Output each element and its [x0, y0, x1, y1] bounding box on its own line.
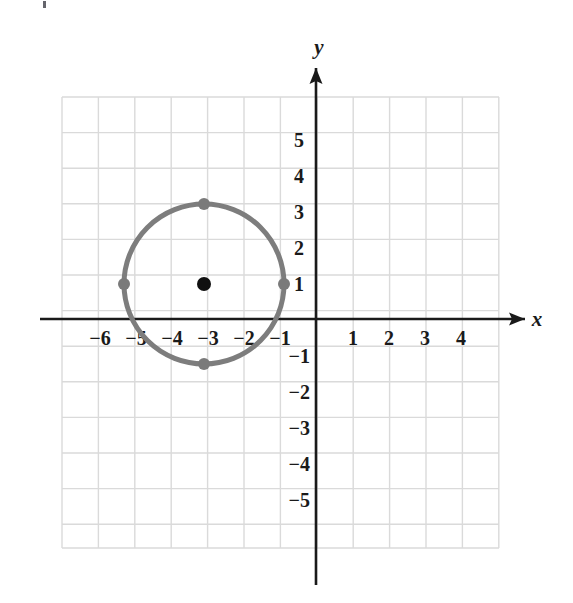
coordinate-plane-graph: x y −6 −5 −4 −3 −2 −1 1 2 3 4 5 4 3 2 1 …: [0, 0, 573, 603]
x-tick-label: −4: [161, 327, 182, 349]
point-marker-bottom: [198, 358, 210, 370]
point-marker-right: [278, 278, 290, 290]
x-tick-label: 1: [348, 327, 358, 349]
x-tick-label: 4: [456, 327, 466, 349]
grid-lines: [62, 97, 499, 548]
y-tick-label: −5: [289, 489, 310, 511]
y-tick-label: −4: [289, 453, 310, 475]
y-tick-label: −1: [289, 345, 310, 367]
y-axis-label: y: [311, 35, 324, 59]
point-marker-top: [198, 198, 210, 210]
y-tick-label: 2: [294, 237, 304, 259]
x-axis-label: x: [531, 307, 543, 331]
y-tick-label: 5: [294, 129, 304, 151]
y-tick-label: −2: [289, 381, 310, 403]
y-tick-label: 4: [294, 165, 304, 187]
circle-center-dot: [197, 277, 211, 291]
x-tick-label: 2: [384, 327, 394, 349]
y-tick-label: 1: [294, 273, 304, 295]
point-marker-left: [118, 278, 130, 290]
y-tick-label: 3: [294, 201, 304, 223]
graph-figure: x y −6 −5 −4 −3 −2 −1 1 2 3 4 5 4 3 2 1 …: [0, 0, 573, 603]
x-tick-label: −3: [197, 327, 218, 349]
y-tick-label: −3: [289, 417, 310, 439]
x-tick-label: −1: [269, 327, 290, 349]
x-tick-label: 3: [420, 327, 430, 349]
x-tick-label: −6: [89, 327, 110, 349]
